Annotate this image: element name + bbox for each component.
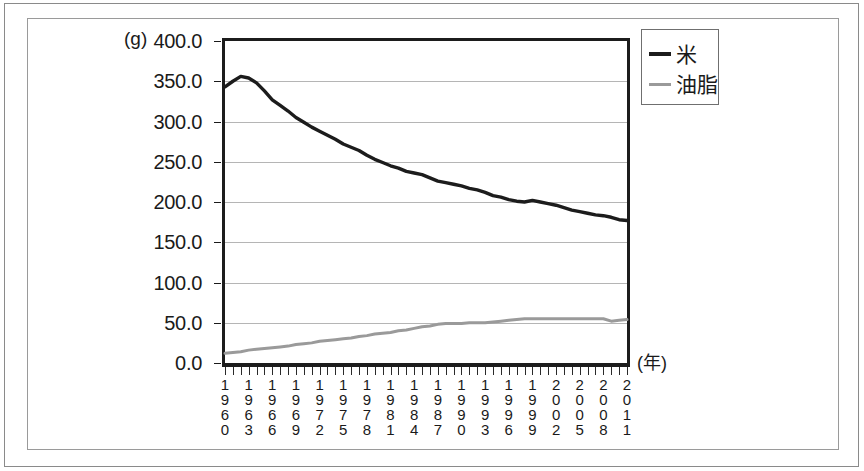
x-axis-tick-mark	[501, 367, 502, 375]
x-axis-tick-mark	[619, 367, 620, 375]
chart-legend: 米 油脂	[641, 29, 719, 105]
x-axis-tick-label: 1963	[241, 377, 257, 437]
y-axis-tick-mark	[214, 323, 221, 324]
x-axis-tick-label: 1993	[477, 377, 493, 437]
x-axis-tick-mark	[454, 367, 455, 375]
x-axis-unit-label: (年)	[637, 348, 667, 374]
y-axis-tick-label: 200.0	[153, 191, 202, 214]
y-axis-tick-label: 300.0	[153, 110, 202, 133]
x-axis-tick-mark	[430, 367, 431, 375]
x-axis-tick-mark	[493, 367, 494, 375]
legend-swatch-icon-oil	[649, 83, 671, 86]
x-axis-tick-label: 1978	[359, 377, 375, 437]
x-axis-tick-mark	[446, 367, 447, 375]
x-axis-tick-mark	[335, 367, 336, 375]
chart-page: (g) 400.0350.0300.0250.0200.0150.0100.05…	[0, 0, 864, 471]
y-axis-tick-mark	[214, 122, 221, 123]
y-axis-tick-mark	[214, 242, 221, 243]
legend-item-oil[interactable]: 油脂	[649, 69, 718, 99]
x-axis-tick-mark	[304, 367, 305, 375]
x-axis-tick-mark	[406, 367, 407, 375]
x-axis-tick-label: 1984	[406, 377, 422, 437]
x-axis-tick-label: 1987	[430, 377, 446, 437]
x-axis-tick-mark	[525, 367, 526, 375]
x-axis-tick-label: 1990	[453, 377, 469, 437]
x-axis-tick-mark	[477, 367, 478, 375]
x-axis-tick-mark	[509, 367, 510, 375]
series-line	[225, 319, 627, 354]
x-axis-tick-label: 2005	[572, 377, 588, 437]
x-axis-tick-mark	[233, 367, 234, 375]
x-axis-tick-labels: 1960196319661969197219751978198119841987…	[222, 377, 630, 441]
y-axis-tick-mark	[214, 363, 221, 364]
y-axis-tick-label: 350.0	[153, 70, 202, 93]
x-axis-tick-mark	[572, 367, 573, 375]
x-axis-tick-mark	[595, 367, 596, 375]
x-axis-tick-label: 2008	[595, 377, 611, 437]
x-axis-tick-mark	[580, 367, 581, 375]
x-axis-tick-mark	[280, 367, 281, 375]
y-axis-tick-label: 100.0	[153, 271, 202, 294]
y-axis-tick-label: 0.0	[175, 352, 202, 375]
x-axis-tick-mark	[264, 367, 265, 375]
x-axis-tick-mark	[320, 367, 321, 375]
x-axis-tick-mark	[272, 367, 273, 375]
x-axis-tick-mark	[556, 367, 557, 375]
x-axis-tick-mark	[391, 367, 392, 375]
x-axis-tick-mark	[249, 367, 250, 375]
x-axis-tick-mark	[627, 367, 628, 375]
series-line	[225, 76, 627, 220]
y-axis-tick-mark	[214, 202, 221, 203]
y-axis-tick-mark	[214, 162, 221, 163]
x-axis-tick-mark	[312, 367, 313, 375]
x-axis-tick-mark	[469, 367, 470, 375]
plot-area	[222, 38, 630, 367]
x-axis-tick-mark	[343, 367, 344, 375]
legend-item-rice[interactable]: 米	[649, 39, 718, 69]
x-axis-tick-mark	[414, 367, 415, 375]
x-axis-tick-label: 1969	[288, 377, 304, 437]
x-axis-tick-label: 1981	[383, 377, 399, 437]
y-axis-tick-label: 50.0	[164, 311, 202, 334]
x-axis-tick-mark	[564, 367, 565, 375]
x-axis-tick-mark	[225, 367, 226, 375]
legend-swatch-icon-rice	[649, 52, 671, 56]
x-axis-tick-mark	[375, 367, 376, 375]
data-series-layer	[225, 41, 627, 363]
y-axis-tick-mark	[214, 41, 221, 42]
x-axis-tick-mark	[398, 367, 399, 375]
x-axis-ticks	[222, 367, 630, 376]
x-axis-tick-mark	[422, 367, 423, 375]
x-axis-tick-mark	[603, 367, 604, 375]
y-axis-tick-mark	[214, 81, 221, 82]
x-axis-tick-mark	[485, 367, 486, 375]
x-axis-tick-label: 2011	[619, 377, 635, 437]
x-axis-tick-mark	[241, 367, 242, 375]
x-axis-tick-mark	[383, 367, 384, 375]
line-chart-figure: (g) 400.0350.0300.0250.0200.0150.0100.05…	[0, 0, 864, 471]
x-axis-tick-mark	[532, 367, 533, 375]
x-axis-tick-mark	[438, 367, 439, 375]
x-axis-tick-mark	[588, 367, 589, 375]
legend-label-oil: 油脂	[676, 74, 718, 95]
x-axis-tick-mark	[351, 367, 352, 375]
x-axis-tick-mark	[540, 367, 541, 375]
y-axis-tick-label: 150.0	[153, 231, 202, 254]
x-axis-tick-label: 2002	[548, 377, 564, 437]
y-axis-tick-labels: 400.0350.0300.0250.0200.0150.0100.050.00…	[120, 38, 216, 367]
x-axis-tick-label: 1975	[335, 377, 351, 437]
x-axis-tick-mark	[257, 367, 258, 375]
x-axis-tick-mark	[517, 367, 518, 375]
x-axis-tick-mark	[359, 367, 360, 375]
x-axis-tick-label: 1960	[217, 377, 233, 437]
x-axis-tick-label: 1966	[264, 377, 280, 437]
x-axis-tick-mark	[611, 367, 612, 375]
x-axis-tick-mark	[548, 367, 549, 375]
x-axis-tick-mark	[367, 367, 368, 375]
x-axis-tick-mark	[461, 367, 462, 375]
x-axis-tick-label: 1972	[312, 377, 328, 437]
legend-label-rice: 米	[676, 44, 697, 65]
y-axis-tick-label: 400.0	[153, 30, 202, 53]
y-axis-tick-label: 250.0	[153, 150, 202, 173]
x-axis-tick-label: 1999	[524, 377, 540, 437]
